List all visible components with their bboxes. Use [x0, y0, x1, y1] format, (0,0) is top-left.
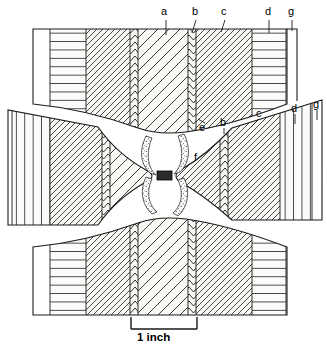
scale-bar: [131, 317, 197, 329]
label-g-top: g: [288, 6, 294, 17]
label-c-middle: c: [256, 108, 262, 119]
center-pinch-node: [157, 171, 172, 180]
figure-cross-section-diagram: a b c d g e b c d g f 1 inch: [0, 0, 327, 349]
label-f-center: f: [194, 152, 197, 163]
label-a-top: a: [161, 6, 167, 17]
diagram-canvas: [0, 0, 327, 349]
shell-bracket-top-right: [287, 29, 297, 101]
label-g-middle: g: [313, 99, 319, 110]
label-e-middle: e: [199, 122, 205, 133]
label-c-top: c: [221, 6, 227, 17]
label-d-top: d: [265, 6, 271, 17]
scale-bar-label: 1 inch: [137, 331, 170, 343]
label-b-top: b: [192, 6, 198, 17]
label-d-middle: d: [291, 103, 297, 114]
label-b-middle: b: [220, 117, 226, 128]
